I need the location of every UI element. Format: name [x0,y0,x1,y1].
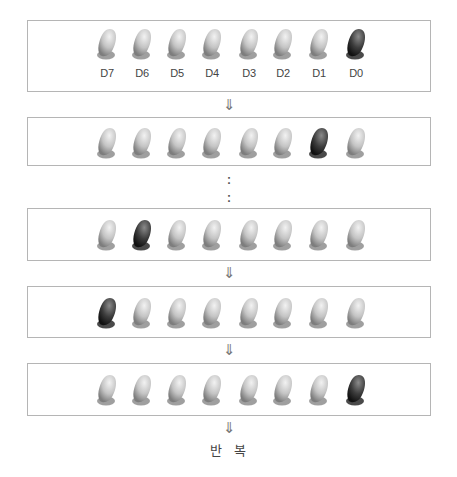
led-d6-off-icon [131,126,153,160]
led-d3-off-icon [238,27,260,61]
down-arrow-icon: ⇓ [219,342,239,357]
led-d6-off-icon [131,373,153,407]
led-panel-state-1: D7 D6 D5 D4 D3 D2 D1 D0 [27,20,431,92]
ellipsis-icon: : [219,192,239,204]
led-d5-off-icon [166,126,188,160]
led-d0-on-icon [345,27,367,61]
bit-label-d7: D7 [92,67,122,79]
bit-label-d0: D0 [341,67,371,79]
led-d4-off-icon [201,373,223,407]
led-d4-off-icon [201,27,223,61]
led-d6-off-icon [131,296,153,330]
led-panel-state-9 [27,363,431,416]
led-d4-off-icon [201,296,223,330]
led-panel-state-8 [27,286,431,338]
led-d1-off-icon [308,27,330,61]
bit-label-d6: D6 [127,67,157,79]
led-panel-state-2 [27,117,431,166]
led-d1-off-icon [308,373,330,407]
down-arrow-icon: ⇓ [219,420,239,435]
down-arrow-icon: ⇓ [219,97,239,112]
repeat-label: 반 복 [200,440,260,459]
led-d0-on-icon [345,373,367,407]
led-d0-off-icon [345,296,367,330]
led-row [28,364,430,415]
led-d6-on-icon [131,218,153,252]
led-d2-off-icon [272,27,294,61]
led-d7-off-icon [96,126,118,160]
led-d4-off-icon [201,218,223,252]
led-d5-off-icon [166,218,188,252]
bit-label-d4: D4 [197,67,227,79]
led-d1-off-icon [308,218,330,252]
led-d6-off-icon [131,27,153,61]
led-d3-off-icon [238,218,260,252]
bit-label-d3: D3 [234,67,264,79]
led-panel-state-7 [27,208,431,261]
bit-label-d2: D2 [268,67,298,79]
led-d2-off-icon [272,296,294,330]
led-d0-off-icon [345,218,367,252]
down-arrow-icon: ⇓ [219,265,239,280]
led-d2-off-icon [272,373,294,407]
led-row [28,287,430,337]
ellipsis-icon: : [219,174,239,186]
led-d3-off-icon [238,126,260,160]
bit-label-d1: D1 [304,67,334,79]
led-d0-off-icon [345,126,367,160]
led-d7-off-icon [96,373,118,407]
led-d5-off-icon [166,373,188,407]
bit-label-d5: D5 [162,67,192,79]
led-row [28,209,430,260]
led-d2-off-icon [272,218,294,252]
led-d2-off-icon [272,126,294,160]
led-d7-on-icon [96,296,118,330]
led-d5-off-icon [166,296,188,330]
led-d1-on-icon [308,126,330,160]
led-row [28,118,430,165]
led-d7-off-icon [96,218,118,252]
led-d4-off-icon [201,126,223,160]
led-d5-off-icon [166,27,188,61]
led-d3-off-icon [238,373,260,407]
led-d3-off-icon [238,296,260,330]
led-row [28,21,430,91]
led-d7-off-icon [96,27,118,61]
led-d1-off-icon [308,296,330,330]
